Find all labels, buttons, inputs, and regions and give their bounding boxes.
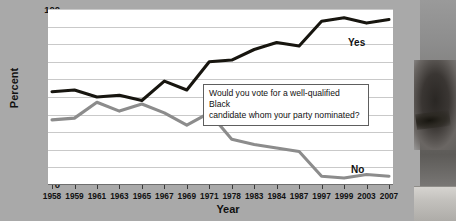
portrait-photo-fragment	[414, 0, 456, 221]
survey-question-line-2: candidate whom your party nominated?	[209, 110, 363, 121]
x-tick	[277, 185, 278, 189]
x-tick	[97, 185, 98, 189]
x-tick-label: 1963	[110, 192, 128, 200]
x-tick	[232, 185, 233, 189]
x-tick-label: 1997	[312, 192, 330, 200]
series-label-yes: Yes	[348, 37, 365, 48]
x-tick-label: 1959	[65, 192, 83, 200]
x-tick-label: 1969	[178, 192, 196, 200]
x-tick-label: 1978	[222, 192, 240, 200]
x-tick-label: 1999	[335, 192, 353, 200]
x-tick-label: 1958	[43, 192, 61, 200]
photo-shoulder-region	[414, 186, 456, 221]
x-tick-label: 1961	[88, 192, 106, 200]
x-tick	[389, 185, 390, 189]
x-tick	[164, 185, 165, 189]
x-axis-title: Year	[0, 203, 456, 215]
x-tick	[254, 185, 255, 189]
x-tick	[209, 185, 210, 189]
x-tick-label: 2007	[380, 192, 398, 200]
survey-question-line-1: Would you vote for a well-qualified Blac…	[209, 88, 363, 110]
series-label-no: No	[351, 164, 364, 175]
chart-figure: Percent 100 90 80 70 60 50 40 30 20 10 0…	[0, 0, 456, 221]
photo-hair-region	[414, 60, 456, 150]
x-tick	[187, 185, 188, 189]
x-tick-label: 1965	[133, 192, 151, 200]
x-tick	[75, 185, 76, 189]
x-tick-label: 1967	[155, 192, 173, 200]
x-tick	[119, 185, 120, 189]
y-axis-title: Percent	[8, 68, 20, 108]
x-tick-label: 1984	[267, 192, 285, 200]
survey-question-callout: Would you vote for a well-qualified Blac…	[203, 84, 369, 126]
x-tick	[344, 185, 345, 189]
x-tick-label: 1971	[200, 192, 218, 200]
x-tick-label: 2003	[357, 192, 375, 200]
x-tick	[322, 185, 323, 189]
x-tick-label: 1987	[290, 192, 308, 200]
x-tick	[142, 185, 143, 189]
x-tick	[299, 185, 300, 189]
x-tick	[367, 185, 368, 189]
x-tick-label: 1983	[245, 192, 263, 200]
x-tick	[52, 185, 53, 189]
